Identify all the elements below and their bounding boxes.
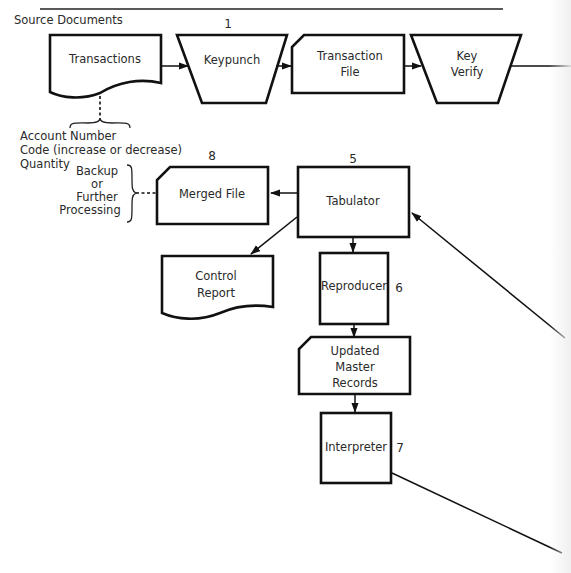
svg-text:Key: Key: [457, 49, 478, 63]
svg-text:Updated: Updated: [331, 344, 380, 358]
svg-text:6: 6: [395, 281, 403, 295]
backup-note: Backup or Further Processing: [59, 164, 136, 222]
svg-text:Backup: Backup: [76, 164, 118, 178]
updated-master-records-node: Updated Master Records: [299, 337, 410, 394]
svg-text:Control: Control: [195, 269, 237, 283]
svg-text:5: 5: [349, 152, 357, 166]
svg-text:7: 7: [396, 441, 404, 455]
svg-text:8: 8: [208, 149, 216, 163]
merged-file-node: 8 Merged File: [157, 149, 268, 224]
field-quantity: Quantity: [20, 157, 70, 171]
svg-text:Verify: Verify: [451, 65, 484, 79]
transaction-file-node: Transaction File: [292, 35, 404, 93]
svg-text:File: File: [340, 65, 359, 79]
svg-text:Keypunch: Keypunch: [204, 53, 260, 67]
keypunch-node: 1 Keypunch: [177, 17, 287, 103]
svg-text:Processing: Processing: [59, 203, 120, 217]
transactions-node: Transactions: [50, 35, 161, 97]
page-edge-shadow: [549, 0, 571, 573]
tabulator-node: 5 Tabulator: [298, 152, 409, 237]
svg-text:Merged File: Merged File: [179, 187, 245, 201]
svg-text:Report: Report: [197, 286, 236, 300]
field-account-number: Account Number: [20, 129, 117, 143]
svg-text:Transactions: Transactions: [68, 52, 141, 66]
flowchart: Source Documents Transactions Account Nu…: [0, 0, 571, 573]
svg-text:Further: Further: [76, 190, 118, 204]
svg-text:Transaction: Transaction: [316, 49, 383, 63]
svg-text:Master: Master: [335, 360, 375, 374]
svg-text:Reproducer: Reproducer: [321, 279, 387, 293]
interpreter-node: Interpreter 7: [321, 413, 404, 483]
key-verify-node: Key Verify: [411, 35, 521, 103]
svg-text:1: 1: [224, 17, 232, 31]
svg-text:Tabulator: Tabulator: [325, 194, 380, 208]
control-report-node: Control Report: [162, 256, 273, 319]
svg-text:or: or: [91, 177, 103, 191]
svg-text:Interpreter: Interpreter: [325, 440, 387, 454]
reproducer-node: Reproducer 6: [320, 253, 403, 324]
svg-text:Records: Records: [332, 376, 378, 390]
brace-icon: [70, 118, 130, 128]
field-code: Code (increase or decrease): [20, 143, 182, 157]
source-documents-label: Source Documents: [14, 13, 123, 27]
